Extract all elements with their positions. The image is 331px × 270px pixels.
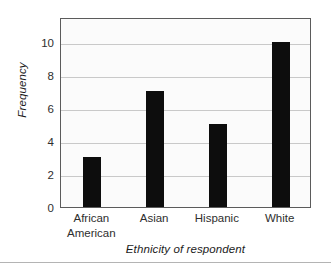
x-tick-label-line-1: African xyxy=(73,212,109,224)
x-tick-label-line-1: Hispanic xyxy=(195,212,239,224)
y-axis-tick-labels: 10 8 6 4 2 0 xyxy=(26,18,54,208)
y-tick-label-6: 6 xyxy=(26,103,54,115)
x-tick-label-line-1: Asian xyxy=(140,212,169,224)
x-tick-label-line-1: White xyxy=(265,212,294,224)
plot-inner xyxy=(61,19,310,207)
x-axis-title: Ethnicity of respondent xyxy=(60,243,311,255)
x-axis-tick-labels: African American Asian Hispanic White xyxy=(60,211,311,245)
y-tick-label-8: 8 xyxy=(26,70,54,82)
footer-divider xyxy=(0,262,331,263)
bar-chart-figure: Frequency 10 8 6 4 2 0 African American … xyxy=(0,0,331,270)
x-tick-label-white: White xyxy=(237,211,323,226)
bar-hispanic[interactable] xyxy=(209,124,227,207)
y-tick-label-2: 2 xyxy=(26,169,54,181)
bar-african-american[interactable] xyxy=(83,157,101,207)
y-tick-label-10: 10 xyxy=(26,37,54,49)
bar-white[interactable] xyxy=(272,42,290,207)
x-tick-label-line-2: American xyxy=(48,226,134,241)
y-tick-label-4: 4 xyxy=(26,136,54,148)
plot-area xyxy=(60,18,311,208)
bar-asian[interactable] xyxy=(146,91,164,207)
